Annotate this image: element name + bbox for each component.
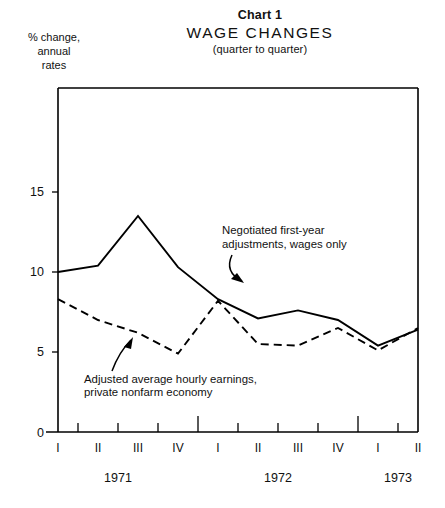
- x-axis-ticks: [78, 416, 398, 432]
- annotation-series1-line-2: adjustments, wages only: [222, 238, 347, 250]
- x-axis-quarter-label: I: [56, 441, 59, 455]
- annotation-series1-line-1: Negotiated first-year: [222, 224, 325, 236]
- annotation-hourly-earnings: Adjusted average hourly earnings, privat…: [84, 337, 257, 398]
- series-line-hourly-earnings: [58, 299, 418, 353]
- x-axis-year-label: 1972: [264, 471, 292, 485]
- x-axis-quarter-label: IV: [332, 441, 343, 455]
- x-axis-quarter-label: II: [415, 441, 422, 455]
- annotation-series2-line-1: Adjusted average hourly earnings,: [84, 373, 257, 385]
- y-tick-label-15: 15: [30, 185, 44, 199]
- chart-figure: Chart 1 WAGE CHANGES (quarter to quarter…: [0, 0, 445, 508]
- x-axis-year-label: 1971: [104, 471, 132, 485]
- x-axis-year-label: 1973: [384, 471, 412, 485]
- x-axis-quarter-label: I: [216, 441, 219, 455]
- x-axis-year-labels: 197119721973: [104, 471, 412, 485]
- arrow-icon: [124, 337, 133, 349]
- x-axis-quarter-label: III: [293, 441, 303, 455]
- y-axis-tick-labels: 15 10 5 0: [30, 185, 44, 440]
- x-axis-quarter-label: III: [133, 441, 143, 455]
- x-axis-quarter-label: I: [376, 441, 379, 455]
- y-tick-label-5: 5: [37, 345, 44, 359]
- y-tick-label-0: 0: [37, 426, 44, 440]
- x-axis-quarter-label: II: [255, 441, 262, 455]
- plot-area: 15 10 5 0 Negotiated first-year adjustme…: [0, 0, 445, 508]
- annotation-negotiated-adjustments: Negotiated first-year adjustments, wages…: [222, 224, 347, 283]
- x-axis-quarter-labels: IIIIIIIVIIIIIIIVIII: [56, 441, 421, 455]
- y-axis-ticks: [52, 192, 58, 352]
- x-axis-quarter-label: II: [95, 441, 102, 455]
- y-tick-label-10: 10: [30, 265, 44, 279]
- annotation-series2-line-2: private nonfarm economy: [84, 386, 213, 398]
- x-axis-quarter-label: IV: [172, 441, 183, 455]
